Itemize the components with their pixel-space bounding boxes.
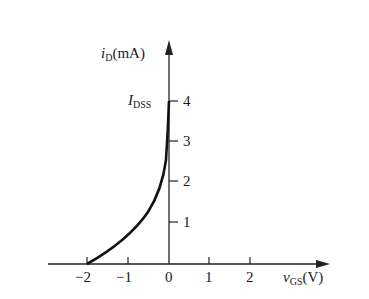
chart-plot [0,0,369,299]
x-axis-arrow-icon [316,260,330,268]
transfer-curve [87,101,169,264]
x-tick-1: 1 [205,270,213,285]
x-axis-label: vGS(V) [283,270,323,287]
y-tick-4: 4 [183,94,191,109]
x-tick-0: 0 [165,270,173,285]
y-tick-1: 1 [183,215,191,230]
y-axis-label: iD(mA) [101,46,145,63]
idss-label: IDSS [128,93,151,110]
y-tick-2: 2 [183,174,191,189]
y-tick-3: 3 [183,134,191,149]
y-ticks [169,101,178,222]
x-tick-neg2: −2 [75,270,91,285]
x-tick-2: 2 [246,270,254,285]
x-tick-neg1: −1 [116,270,132,285]
y-axis-arrow-icon [165,40,173,55]
